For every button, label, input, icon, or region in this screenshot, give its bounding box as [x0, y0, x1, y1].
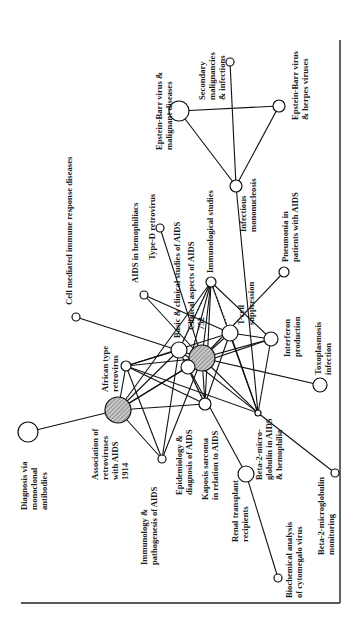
edge-african-retrovirus-to-immunology-pathogenesis [126, 366, 162, 459]
node-secondary-malignancies [226, 58, 234, 66]
label-type-d-retrovirus: Type-D retrovirus [147, 193, 157, 260]
edge-secondary-malignancies-to-infectious-mononucleosis [230, 62, 236, 186]
label-line: monoclonal [29, 467, 39, 510]
label-line: AIDS in hemophiliacs [130, 202, 140, 283]
label-line: Immunological studies [205, 189, 215, 273]
label-aids-hemophiliacs: AIDS in hemophiliacs [130, 202, 140, 283]
label-line: Epidemiology & [174, 435, 184, 495]
label-line: globulin in AIDS [264, 418, 274, 480]
label-line: Kaposis sarcoma [200, 437, 210, 500]
edge-interferon-to-beta2-aids [258, 339, 271, 413]
label-cell-mediated: Cell mediated immune response diseases [64, 156, 74, 305]
label-line: T-cell [236, 304, 246, 325]
label-line: monitoring [326, 513, 336, 555]
label-interferon: Interferonproduction [282, 316, 302, 357]
label-t-cell-suppression: T-cellsuppression [236, 281, 256, 325]
label-line: with AIDS [110, 441, 120, 480]
node-t-cell-suppression [222, 325, 238, 341]
label-secondary-malignancies: Secondarymalignancies& infections [197, 52, 227, 100]
label-pneumonia: Pneumonia inpatients with AIDS [280, 192, 300, 262]
label-beta2-monitoring: Beta-2-microglobulinmonitoring [316, 477, 336, 555]
label-ebv-malignant: Epstein-Barr virus &malignant diseases [154, 72, 174, 150]
label-association-retroviruses: Association ofretroviruseswith AIDS1914 [90, 429, 130, 480]
label-line: Pneumonia in [280, 211, 290, 262]
label-toxoplasmosis: Toxoplasmosisinfection [313, 321, 333, 375]
label-renal-transplant: Renal transplantrecipients [230, 480, 250, 542]
label-biochemical-cmv: Biochemical analysisof cytomegalo virus [284, 521, 304, 598]
label-line: pathogenesis of AIDS [149, 486, 159, 565]
label-line: mononucleosis [248, 178, 258, 232]
label-line: of cytomegalo virus [294, 526, 304, 598]
label-african-retrovirus: African typeretrovirus [100, 346, 120, 392]
label-immunology-pathogenesis: Immunology &pathogenesis of AIDS [139, 486, 159, 565]
label-diagnosis-monoclonal: Diagnosis viamonoclonalantibodies [19, 461, 49, 510]
label-line: Immunology & [139, 509, 149, 565]
label-line: Interferon [282, 319, 292, 357]
label-line: Beta-2-micro- [254, 429, 264, 480]
label-line: Beta-2-microglobulin [316, 477, 326, 555]
label-line: Diagnosis via [19, 461, 29, 510]
edge-renal-transplant-to-biochemical-cmv [246, 474, 278, 578]
labels-layer: Epstein-Barr virus &malignant diseasesSe… [19, 51, 336, 598]
label-line: Infectious [238, 195, 248, 232]
cocitation-cluster-map: Epstein-Barr virus &malignant diseasesSe… [0, 0, 358, 623]
label-line: 1914 [120, 462, 130, 480]
label-line: recipients [240, 506, 250, 542]
node-interferon [264, 332, 278, 346]
node-biochemical-cmv [274, 574, 282, 582]
node-immunology-pathogenesis [158, 455, 166, 463]
edge-toxoplasmosis-to-clinical-aspects [202, 358, 320, 385]
label-basic-clinical: Basic & clinical studies of AIDS [172, 222, 182, 338]
label-line: infection [323, 343, 333, 375]
label-line: Toxoplasmosis [313, 321, 323, 375]
label-line: patients with AIDS [290, 192, 300, 262]
node-toxoplasmosis [313, 378, 327, 392]
label-line: retrovirus [110, 354, 120, 392]
label-line: Epstein-Barr virus [290, 51, 300, 120]
node-renal-transplant [238, 466, 254, 482]
label-line: Secondary [197, 61, 207, 100]
edge-ebv-malignant-to-ebv-herpes [179, 106, 279, 111]
label-line: Type-D retrovirus [147, 193, 157, 260]
node-ebv-herpes [273, 100, 285, 112]
label-line: antibodies [39, 472, 49, 510]
node-immunological-studies [206, 277, 216, 287]
node-diagnosis-monoclonal [18, 422, 38, 442]
label-line: Renal transplant [230, 480, 240, 542]
label-line: Clinical aspects of AIDS [186, 241, 196, 330]
label-line: retroviruses [100, 435, 110, 480]
label-line: 752 [196, 317, 206, 330]
label-line: malignancies [207, 52, 217, 100]
node-association-retroviruses [105, 397, 131, 423]
label-line: Epstein-Barr virus & [154, 72, 164, 150]
label-line: suppression [246, 281, 256, 325]
node-cell-mediated [72, 313, 80, 321]
node-type-d-retrovirus [156, 224, 164, 232]
label-line: African type [100, 346, 110, 392]
node-african-retrovirus [121, 361, 131, 371]
label-line: Basic & clinical studies of AIDS [172, 222, 182, 338]
label-ebv-herpes: Epstein-Barr virus& herpes viruses [290, 51, 310, 120]
node-basic-clinical [171, 342, 187, 358]
node-infectious-mononucleosis [230, 180, 242, 192]
label-immunological-studies: Immunological studies [205, 189, 215, 273]
node-beta2-monitoring [331, 469, 339, 477]
label-epidemiology: Epidemiology &diagnosis of AIDS [174, 429, 194, 495]
edge-ebv-herpes-to-infectious-mononucleosis [236, 106, 279, 186]
node-aids-hemophiliacs [140, 291, 148, 299]
label-line: Cell mediated immune response diseases [64, 156, 74, 305]
label-line: Association of [90, 429, 100, 480]
node-epidemiology [181, 360, 195, 374]
edge-association-retroviruses-to-diagnosis-monoclonal [28, 410, 118, 432]
label-kaposi: Kaposis sarcomain relation to AIDS [200, 430, 220, 500]
label-line: Biochemical analysis [284, 521, 294, 598]
label-line: in relation to AIDS [210, 430, 220, 500]
label-line: & infections [217, 55, 227, 100]
edge-ebv-malignant-to-infectious-mononucleosis [179, 111, 236, 186]
label-clinical-aspects: Clinical aspects of AIDS752 [186, 241, 206, 330]
node-pneumonia [279, 267, 289, 277]
label-line: & herpes viruses [300, 58, 310, 120]
node-beta2-aids [255, 410, 261, 416]
label-line: & hemophilia [274, 429, 284, 480]
label-line: production [292, 316, 302, 357]
